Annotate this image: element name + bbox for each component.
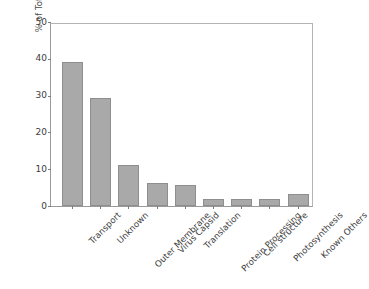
bar[interactable]: [147, 183, 168, 206]
x-tick-mark: [100, 206, 101, 209]
bar[interactable]: [203, 199, 224, 206]
bar[interactable]: [231, 199, 252, 206]
bar[interactable]: [288, 194, 309, 206]
bar[interactable]: [90, 98, 111, 206]
bar[interactable]: [118, 165, 139, 206]
y-tick-mark: [48, 206, 51, 207]
plot-area: % of Total 01020304050: [50, 23, 313, 207]
bar-series: [51, 24, 312, 206]
x-axis-tick-labels: TransportUnknownOuter MembraneVirus Caps…: [50, 210, 340, 289]
x-tick-mark: [298, 206, 299, 209]
x-tick-mark: [269, 206, 270, 209]
x-tick-mark: [157, 206, 158, 209]
x-tick-mark: [128, 206, 129, 209]
x-tick-mark: [72, 206, 73, 209]
y-tick-mark: [48, 22, 51, 23]
x-tick-mark: [213, 206, 214, 209]
x-tick-mark: [241, 206, 242, 209]
bar[interactable]: [175, 185, 196, 206]
bar[interactable]: [62, 62, 83, 206]
x-tick-mark: [185, 206, 186, 209]
bar[interactable]: [259, 199, 280, 206]
